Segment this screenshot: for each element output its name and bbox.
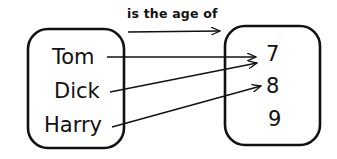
codomain-item-8: 8	[266, 76, 279, 97]
codomain-item-9: 9	[268, 109, 281, 130]
domain-item-tom: Tom	[52, 47, 95, 68]
codomain-item-7: 7	[266, 44, 279, 65]
domain-item-harry: Harry	[44, 115, 102, 136]
relation-label: is the age of	[127, 6, 218, 21]
mapping-arrow-harry-8	[112, 86, 261, 127]
mapping-arrow-dick-7	[110, 63, 257, 92]
domain-item-dick: Dick	[54, 81, 100, 102]
relation-arrow	[128, 31, 220, 32]
